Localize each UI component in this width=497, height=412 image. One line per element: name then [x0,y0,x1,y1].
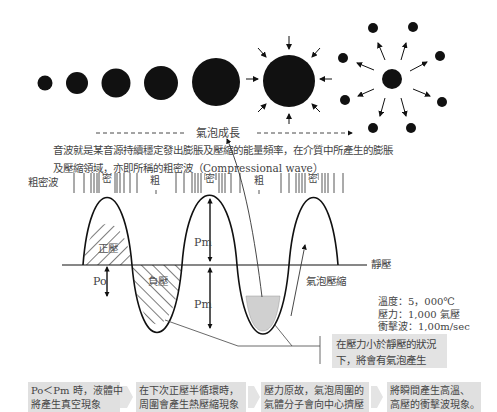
static-pressure-label: 靜壓 [371,259,391,270]
step-1-line-2: 將產生真空現象 [31,398,117,412]
positive-pressure-label: 正壓 [98,243,118,254]
step-1: Po＜Pm 時，液體中 將產生真空現象 [28,382,120,412]
bubble-1 [38,76,53,91]
collapse-stats: 溫度：5，000℃ 壓力：1,000 氣壓 衝擊波：1,00m/sec [378,296,470,334]
note-callout [165,320,320,364]
zone-rare-2: 粗 [254,176,264,186]
step-4-line-1: 將瞬間產生高溫、 [390,384,478,398]
bubble-compression-label: 氣泡壓縮 [306,276,346,287]
bubble-collapse-burst [338,22,447,133]
negative-pressure-area [132,265,182,324]
note-line-2: 下，將會有氣泡產生 [336,352,443,368]
description: 音波就是某音源持續穩定發出膨脹及壓縮的能量頻率，在介質中所產生的膨脹 及壓縮領域… [53,141,393,177]
step-4: 將瞬間產生高溫、 高壓的衝擊波現象。 [387,382,481,412]
step-2-line-1: 在下次正壓半循環時， [139,384,243,398]
pm-lower-label: Pm [194,299,212,310]
step-3-line-2: 氣體分子會向中心擠壓 [264,398,366,412]
step-2-line-2: 周圍會產生熱壓縮現象 [139,398,243,412]
step-3: 壓力原故，氣泡周圍的 氣體分子會向中心擠壓 [261,382,369,412]
bubble-growth-label: 氣泡成長 [196,128,240,139]
step-3-line-1: 壓力原故，氣泡周圍的 [264,384,366,398]
note-line-1: 在壓力小於靜壓的狀況 [336,336,443,352]
zone-dense-2: 密 [205,174,215,184]
stat-shockwave: 衝擊波：1,00m/sec [378,321,470,334]
bubble-3 [102,69,131,98]
bubble-formation-note: 在壓力小於靜壓的狀況 下，將會有氣泡產生 [332,334,447,368]
negative-pressure-label: 負壓 [148,276,168,287]
step-2: 在下次正壓半循環時， 周圍會產生熱壓縮現象 [136,382,246,412]
bubble-2 [66,72,88,94]
compression-wave-label: 粗密波 [28,177,58,188]
description-line-1: 音波就是某音源持續穩定發出膨脹及壓縮的能量頻率，在介質中所產生的膨脹 [53,141,393,159]
po-label: Po [93,276,107,287]
pm-upper-label: Pm [194,237,212,248]
zone-dense-1: 密 [102,174,112,184]
bubble-compressing [246,36,332,124]
bubble-growth-sequence [38,58,241,106]
zone-rare-1: 粗 [150,176,160,186]
bubble-4 [144,66,178,100]
bubble-5 [192,58,240,106]
step-1-line-1: Po＜Pm 時，液體中 [31,384,117,398]
stat-temperature: 溫度：5，000℃ [378,296,470,309]
step-4-line-2: 高壓的衝擊波現象。 [390,398,478,412]
compression-arrow [291,245,305,316]
zone-dense-3: 密 [308,174,318,184]
stat-pressure: 壓力：1,000 氣壓 [378,309,470,322]
